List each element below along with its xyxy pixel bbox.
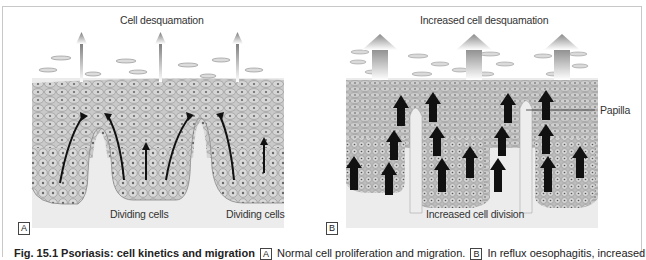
panel-b: Increased cell desquamation Papilla Incr… — [330, 8, 635, 236]
panel-a: Cell desquamation Dividing cells Dividin… — [8, 8, 313, 236]
caption-text-a: Normal cell proliferation and migration. — [277, 247, 465, 259]
caption-marker-a: A — [260, 248, 272, 260]
dividing-cells-label-2: Dividing cells — [226, 208, 284, 220]
increased-cell-division-label: Increased cell division — [426, 208, 524, 220]
panel-b-illustration — [330, 8, 635, 236]
panel-b-marker: B — [326, 222, 338, 235]
caption-marker-b: B — [470, 248, 482, 260]
panel-b-title: Increased cell desquamation — [420, 14, 548, 26]
panel-a-illustration — [8, 8, 313, 236]
caption-text-b: In reflux oesophagitis, increased — [487, 247, 645, 259]
dividing-cells-label-1: Dividing cells — [110, 208, 168, 220]
panel-a-title: Cell desquamation — [120, 14, 204, 26]
panel-a-marker: A — [18, 222, 30, 235]
caption-title: Fig. 15.1 Psoriasis: cell kinetics and m… — [14, 247, 255, 259]
figure-caption: Fig. 15.1 Psoriasis: cell kinetics and m… — [14, 247, 645, 260]
papilla-label: Papilla — [600, 104, 630, 116]
